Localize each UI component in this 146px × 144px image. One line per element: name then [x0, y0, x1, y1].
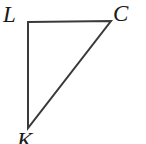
vertex-label-c: C [113, 2, 128, 25]
triangle-outline [28, 21, 111, 128]
vertex-label-k: K [17, 129, 32, 144]
geometry-figure: L C K [0, 0, 146, 144]
vertex-label-l: L [3, 3, 16, 26]
